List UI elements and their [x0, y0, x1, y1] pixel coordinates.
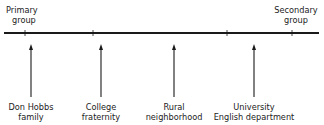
label-line: fraternity [71, 112, 131, 122]
label-line: Secondary [270, 5, 322, 15]
primary-group-label: Primary group [6, 5, 38, 25]
secondary-group-label: Secondary group [270, 5, 322, 25]
arrows [29, 44, 256, 97]
item-label-college-fraternity: College fraternity [71, 102, 131, 122]
label-line: College [71, 102, 131, 112]
label-line: group [6, 15, 38, 25]
arrow-icon [172, 44, 176, 97]
label-line: family [1, 112, 61, 122]
arrow-icon [99, 44, 103, 97]
label-line: Rural [139, 102, 209, 112]
label-line: University [204, 102, 304, 112]
label-line: English department [204, 112, 304, 122]
item-label-rural-neighborhood: Rural neighborhood [139, 102, 209, 122]
label-line: Don Hobbs [1, 102, 61, 112]
arrow-icon [29, 44, 33, 97]
label-line: group [270, 15, 322, 25]
arrow-icon [252, 44, 256, 97]
label-line: neighborhood [139, 112, 209, 122]
label-line: Primary [6, 5, 38, 15]
item-label-university-english-department: University English department [204, 102, 304, 122]
item-label-don-hobbs-family: Don Hobbs family [1, 102, 61, 122]
